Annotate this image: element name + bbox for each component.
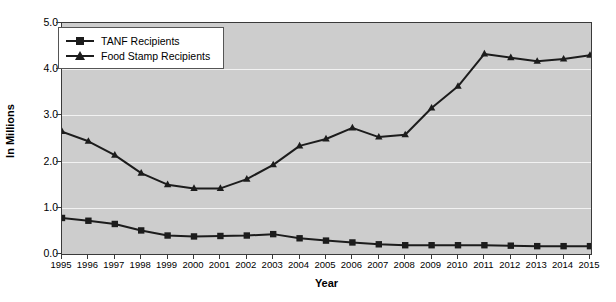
data-point-square	[61, 215, 65, 221]
data-point-square	[138, 227, 144, 233]
data-point-triangle	[61, 127, 66, 134]
data-point-square	[428, 242, 434, 248]
data-point-square	[587, 243, 592, 249]
chart-legend: TANF RecipientsFood Stamp Recipients	[58, 27, 224, 69]
data-point-square	[402, 242, 408, 248]
y-axis-tick-labels: 0.01.02.03.04.05.0	[18, 0, 58, 302]
data-point-triangle	[481, 50, 488, 57]
data-point-square	[164, 232, 170, 238]
line-chart: In Millions 0.01.02.03.04.05.0 199519961…	[0, 0, 616, 302]
y-axis-tick-label: 2.0	[22, 155, 58, 167]
legend-marker	[76, 37, 84, 45]
data-point-triangle	[349, 124, 356, 131]
y-axis-title: In Millions	[0, 0, 20, 262]
data-point-square	[323, 237, 329, 243]
series-line	[62, 54, 590, 188]
data-point-square	[508, 242, 514, 248]
y-axis-tick-label: 0.0	[22, 247, 58, 259]
series-tanf-recipients	[61, 215, 592, 250]
data-point-square	[349, 239, 355, 245]
data-point-square	[112, 221, 118, 227]
legend-item-label: TANF Recipients	[101, 35, 180, 47]
x-axis-title: Year	[61, 277, 592, 289]
data-point-square	[376, 241, 382, 247]
legend-item-label: Food Stamp Recipients	[101, 50, 210, 62]
data-point-square	[217, 233, 223, 239]
data-point-square	[481, 242, 487, 248]
legend-item-1: Food Stamp Recipients	[66, 48, 210, 63]
data-point-square	[296, 235, 302, 241]
data-point-square	[244, 232, 250, 238]
legend-triangle-marker-icon	[66, 50, 94, 62]
legend-square-marker-icon	[66, 35, 94, 47]
data-point-square	[85, 218, 91, 224]
data-point-square	[191, 233, 197, 239]
y-axis-tick-label: 5.0	[22, 16, 58, 28]
y-axis-title-text: In Millions	[4, 104, 16, 158]
data-point-square	[560, 243, 566, 249]
legend-marker	[75, 51, 85, 60]
legend-item-0: TANF Recipients	[66, 33, 210, 48]
data-point-square	[270, 231, 276, 237]
x-axis-tick-label: 2015	[569, 259, 609, 270]
y-axis-tick-label: 1.0	[22, 201, 58, 213]
data-point-square	[455, 242, 461, 248]
data-point-triangle	[586, 51, 592, 58]
data-point-square	[534, 243, 540, 249]
series-food-stamp-recipients	[61, 50, 592, 191]
x-axis-tick-labels: 1995199619971998199920002001200220032004…	[61, 259, 592, 273]
y-axis-tick-label: 4.0	[22, 62, 58, 74]
y-axis-tick-label: 3.0	[22, 108, 58, 120]
